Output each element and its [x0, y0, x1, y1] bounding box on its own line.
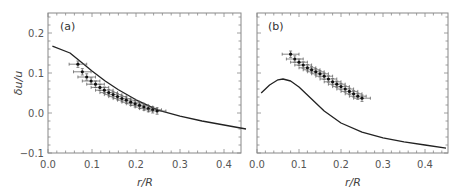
data-point: [291, 59, 308, 65]
data-point: [144, 107, 162, 113]
y-tick-label: 0.1: [28, 68, 44, 79]
data-point: [82, 78, 100, 84]
data-point: [69, 61, 87, 67]
plot-frame: [257, 13, 448, 153]
panel-a-x-axis-title: r/R: [137, 176, 153, 189]
panel-b-plot: 0.00.10.20.30.4: [249, 13, 448, 170]
x-tick-label: 0.3: [172, 159, 188, 170]
data-point: [282, 51, 299, 57]
x-tick-label: 0.4: [417, 159, 433, 170]
panel-a-label: (a): [60, 20, 75, 33]
y-tick-label: 0.0: [28, 108, 44, 119]
panel-a-plot: 0.00.10.20.30.4−0.10.00.10.2: [20, 13, 246, 170]
x-tick-label: 0.0: [40, 159, 56, 170]
x-tick-label: 0.4: [216, 159, 232, 170]
data-point: [87, 81, 105, 87]
data-point: [286, 56, 303, 62]
model-curve: [52, 46, 246, 129]
figure: 0.00.10.20.30.4−0.10.00.10.2 0.00.10.20.…: [0, 0, 461, 193]
data-point: [74, 69, 92, 75]
x-tick-label: 0.1: [84, 159, 100, 170]
data-point: [91, 84, 109, 90]
y-tick-label: 0.2: [28, 28, 44, 39]
x-tick-label: 0.0: [249, 159, 265, 170]
y-tick-label: −0.1: [20, 148, 44, 159]
x-tick-label: 0.2: [333, 159, 349, 170]
panel-b-label: (b): [268, 20, 284, 33]
data-point: [78, 74, 96, 80]
y-axis-title: δu/u: [12, 71, 25, 95]
x-tick-label: 0.2: [128, 159, 144, 170]
x-tick-label: 0.3: [375, 159, 391, 170]
x-tick-label: 0.1: [291, 159, 307, 170]
data-point: [295, 62, 312, 68]
data-point: [320, 76, 337, 82]
plot-frame: [48, 13, 241, 153]
panel-b-x-axis-title: r/R: [345, 176, 361, 189]
